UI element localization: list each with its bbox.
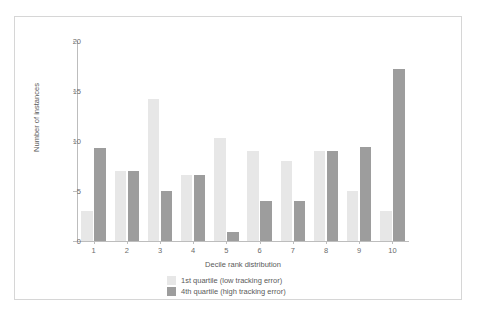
bar-3-series2: [161, 191, 173, 241]
top-cutoff-strip: [0, 0, 477, 9]
bar-2-series2: [128, 171, 140, 241]
legend-item-2: 4th quartile (high tracking error): [167, 286, 286, 297]
x-tick-mark: [226, 241, 227, 244]
x-tick-mark: [326, 241, 327, 244]
bar-group-5: [214, 41, 239, 241]
plot-area: Number of instances 05101520 12345678910…: [15, 17, 463, 301]
bar-4-series2: [194, 175, 206, 241]
x-tick-mark: [193, 241, 194, 244]
legend-label: 4th quartile (high tracking error): [181, 287, 286, 296]
legend-swatch-icon: [167, 287, 176, 296]
x-tick-label-10: 10: [377, 246, 407, 255]
bar-2-series1: [115, 171, 127, 241]
x-tick-label-8: 8: [311, 246, 341, 255]
x-tick-mark: [260, 241, 261, 244]
bar-group-6: [247, 41, 272, 241]
bar-group-7: [281, 41, 306, 241]
x-tick-mark: [160, 241, 161, 244]
bar-1-series1: [81, 211, 93, 241]
bar-7-series1: [281, 161, 293, 241]
bar-10-series1: [380, 211, 392, 241]
x-tick-mark: [293, 241, 294, 244]
bar-1-series2: [94, 148, 106, 241]
bar-group-4: [181, 41, 206, 241]
x-tick-label-2: 2: [112, 246, 142, 255]
y-axis-title: Number of instances: [32, 53, 41, 183]
x-tick-label-9: 9: [344, 246, 374, 255]
bar-9-series2: [360, 147, 372, 241]
x-axis-title: Decile rank distribution: [77, 260, 409, 269]
y-tick-20: 20: [15, 41, 81, 42]
bar-5-series1: [214, 138, 226, 241]
bar-8-series1: [314, 151, 326, 241]
x-tick-mark: [359, 241, 360, 244]
x-tick-label-5: 5: [211, 246, 241, 255]
bar-3-series1: [148, 99, 160, 241]
bar-10-series2: [393, 69, 405, 241]
x-tick-mark: [392, 241, 393, 244]
y-tick-5: 5: [15, 191, 81, 192]
y-tick-10: 10: [15, 141, 81, 142]
bar-group-9: [347, 41, 372, 241]
x-tick-label-6: 6: [245, 246, 275, 255]
bar-group-2: [115, 41, 140, 241]
legend-swatch-icon: [167, 276, 176, 285]
y-tick-mark: [73, 241, 77, 242]
x-tick-mark: [94, 241, 95, 244]
bar-9-series1: [347, 191, 359, 241]
bar-5-series2: [227, 232, 239, 241]
legend-item-1: 1st quartile (low tracking error): [167, 275, 286, 286]
bar-6-series1: [247, 151, 259, 241]
chart-figure-frame: Number of instances 05101520 12345678910…: [14, 16, 462, 300]
x-tick-label-4: 4: [178, 246, 208, 255]
x-tick-label-3: 3: [145, 246, 175, 255]
legend-label: 1st quartile (low tracking error): [181, 276, 282, 285]
chart-legend: 1st quartile (low tracking error)4th qua…: [167, 275, 286, 297]
x-tick-label-7: 7: [278, 246, 308, 255]
bar-group-8: [314, 41, 339, 241]
y-tick-15: 15: [15, 91, 81, 92]
bar-group-10: [380, 41, 405, 241]
bar-4-series1: [181, 175, 193, 241]
bar-8-series2: [327, 151, 339, 241]
bar-7-series2: [294, 201, 306, 241]
y-tick-0: 0: [15, 241, 81, 242]
bar-6-series2: [260, 201, 272, 241]
x-tick-mark: [127, 241, 128, 244]
bar-group-1: [81, 41, 106, 241]
x-tick-label-1: 1: [79, 246, 109, 255]
bars-layer: [77, 41, 409, 241]
bar-group-3: [148, 41, 173, 241]
